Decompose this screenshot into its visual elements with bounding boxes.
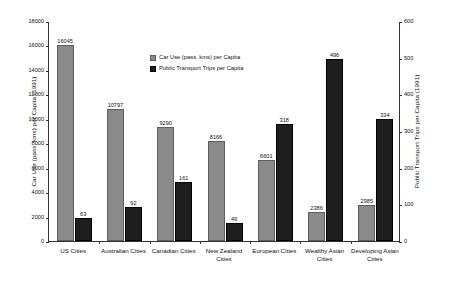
bar-value-label-public-transport: 92 [121,201,146,207]
bar-car-use [258,160,275,241]
x-axis-tick [150,241,151,244]
y-axis-right-tick [399,205,402,206]
chart-legend: Car Use (pass. kms) per Capita Public Tr… [150,55,243,77]
y-axis-left-tick [46,218,49,219]
x-axis-tick [99,241,100,244]
y-axis-right-tick [399,95,402,96]
bar-value-label-public-transport: 161 [171,176,196,182]
y-axis-right-tick [399,132,402,133]
legend-swatch-public-transport-icon [150,66,156,72]
y-axis-right-tick [399,242,402,243]
y-axis-left-tick [46,193,49,194]
y-axis-left-tick-label: 10000 [28,117,44,123]
y-axis-left-tick-label: 6000 [32,166,44,172]
y-axis-left-tick [46,71,49,72]
bar-car-use [358,205,375,241]
x-axis-category-label: Australian Cities [98,247,148,255]
x-axis-tick [300,241,301,244]
y-axis-left-tick-label: 14000 [28,68,44,74]
y-axis-right-tick [399,22,402,23]
y-axis-left-tick-label: 12000 [28,92,44,98]
bar-public-transport [226,223,243,241]
y-axis-left-tick [46,169,49,170]
x-axis-category-labels: US CitiesAustralian CitiesCanadian Citie… [48,247,400,281]
bar-public-transport [376,119,393,241]
bar-public-transport [75,218,92,241]
y-axis-right-tick-label: 400 [404,92,413,98]
y-axis-right-tick [399,169,402,170]
bar-public-transport [125,207,142,241]
bar-public-transport [276,124,293,241]
y-axis-left-tick-label: 0 [41,239,44,245]
bar-value-label-car-use: 8166 [204,135,229,141]
bar-value-label-car-use: 16045 [53,39,78,45]
x-axis-category-label: European Cities [249,247,299,255]
y-axis-left-tick-label: 4000 [32,190,44,196]
bar-value-label-public-transport: 496 [322,53,347,59]
y-axis-right-tick-label: 0 [404,239,407,245]
legend-label-car-use: Car Use (pass. kms) per Capita [159,55,240,61]
y-axis-left-tick [46,95,49,96]
y-axis-left-tick [46,46,49,47]
y-axis-left-tick-label: 16000 [28,43,44,49]
legend-item-public-transport: Public Transport Trips per Capita [150,66,243,72]
y-axis-right-tick-label: 600 [404,19,413,25]
y-axis-left-title: Car Use (pass. kms) per Capita (1991) [30,52,37,212]
y-axis-left-tick-label: 18000 [28,19,44,25]
y-axis-right-tick-label: 200 [404,166,413,172]
y-axis-right-tick-label: 300 [404,129,413,135]
y-axis-right-tick-label: 500 [404,56,413,62]
x-axis-category-label: Canadian Cities [149,247,199,255]
legend-label-public-transport: Public Transport Trips per Capita [159,66,243,72]
bar-value-label-car-use: 10797 [103,103,128,109]
bar-car-use [308,212,325,241]
x-axis-tick [351,241,352,244]
y-axis-left-tick [46,22,49,23]
x-axis-category-label: Wealthy Asian Cities [299,247,349,263]
y-axis-right-title: Public Transport Trips per Capita (1991) [413,52,420,212]
y-axis-left-tick-label: 2000 [32,215,44,221]
bar-public-transport [175,182,192,241]
bar-value-label-public-transport: 334 [372,113,397,119]
y-axis-left-tick-label: 8000 [32,141,44,147]
bar-value-label-car-use: 9290 [153,121,178,127]
y-axis-right-tick-label: 100 [404,202,413,208]
legend-swatch-car-use-icon [150,55,156,61]
chart-container: Car Use (pass. kms) per Capita (1991) Pu… [0,0,449,286]
legend-item-car-use: Car Use (pass. kms) per Capita [150,55,243,61]
x-axis-tick [250,241,251,244]
bar-car-use [208,141,225,241]
bar-value-label-public-transport: 63 [71,212,96,218]
bar-value-label-public-transport: 318 [272,118,297,124]
bar-car-use [107,109,124,241]
y-axis-left-tick [46,242,49,243]
bar-car-use [157,127,174,241]
y-axis-left-tick [46,120,49,121]
bar-public-transport [326,59,343,241]
bar-value-label-public-transport: 49 [222,217,247,223]
plot-area: 0200040006000800010000120001400016000180… [48,22,400,242]
y-axis-left-tick [46,144,49,145]
x-axis-category-label: US Cities [48,247,98,255]
y-axis-right-tick [399,59,402,60]
x-axis-tick [200,241,201,244]
x-axis-category-label: New Zealand Cities [199,247,249,263]
x-axis-category-label: Developing Asian Cities [350,247,400,263]
